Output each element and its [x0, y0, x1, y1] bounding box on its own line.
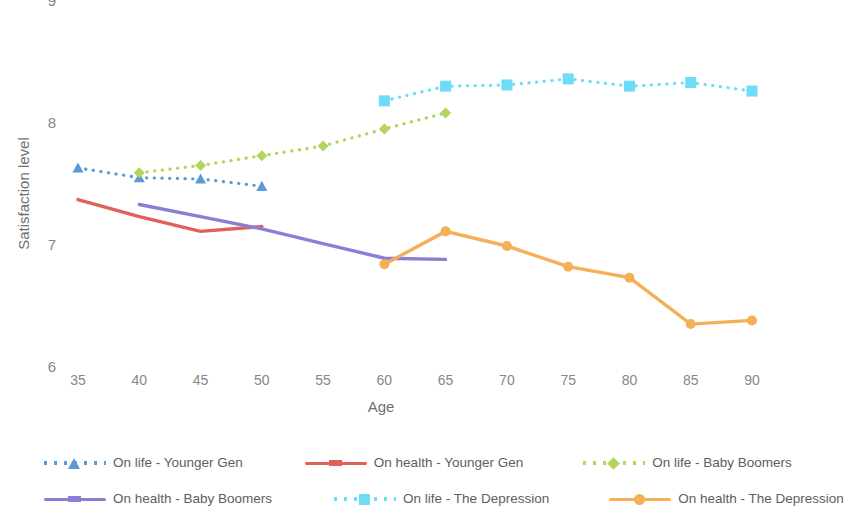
marker-glyph — [607, 457, 620, 470]
triangle-marker-icon — [68, 456, 82, 470]
legend-label: On health - Younger Gen — [374, 456, 523, 470]
dash-marker-icon — [329, 456, 343, 470]
data-point-marker — [440, 81, 451, 92]
data-point-marker — [73, 162, 84, 172]
x-tick-label: 65 — [426, 372, 466, 388]
x-axis-title: Age — [0, 398, 762, 415]
series-0 — [73, 162, 268, 190]
x-tick-label: 55 — [303, 372, 343, 388]
x-tick-label: 70 — [487, 372, 527, 388]
legend-label: On life - Younger Gen — [113, 456, 243, 470]
x-tick-label: 50 — [242, 372, 282, 388]
data-point-marker — [686, 319, 696, 329]
legend-key — [334, 492, 396, 506]
data-point-marker — [685, 77, 696, 88]
data-point-marker — [256, 181, 267, 191]
data-point-marker — [747, 86, 758, 97]
circle-marker-icon — [633, 492, 647, 506]
legend-key — [305, 456, 367, 470]
x-tick-label: 60 — [364, 372, 404, 388]
data-point-marker — [379, 95, 390, 106]
series-1 — [78, 200, 262, 232]
legend-label: On life - The Depression — [403, 492, 549, 506]
x-tick-label: 35 — [58, 372, 98, 388]
data-point-marker — [624, 273, 634, 283]
y-axis-title: Satisfaction level — [15, 109, 32, 279]
legend-key — [583, 456, 645, 470]
y-tick-label: 7 — [32, 237, 56, 253]
legend-key — [44, 492, 106, 506]
marker-glyph — [634, 494, 645, 505]
series-5 — [379, 226, 757, 329]
data-point-marker — [134, 167, 145, 178]
data-point-marker — [379, 123, 390, 134]
series-2 — [134, 108, 451, 179]
x-tick-label: 40 — [119, 372, 159, 388]
data-point-marker — [379, 259, 389, 269]
data-point-marker — [501, 79, 512, 90]
data-point-marker — [256, 150, 267, 161]
x-tick-label: 90 — [732, 372, 772, 388]
y-tick-label: 6 — [32, 359, 56, 375]
data-point-marker — [441, 226, 451, 236]
data-point-marker — [563, 73, 574, 84]
data-point-marker — [318, 140, 329, 151]
series-line — [139, 205, 445, 260]
legend-item-1[interactable]: On health - Younger Gen — [305, 448, 523, 478]
y-tick-label: 8 — [32, 115, 56, 131]
dash-marker-icon — [68, 492, 82, 506]
series-4 — [379, 73, 758, 106]
legend-item-0[interactable]: On life - Younger Gen — [44, 448, 243, 478]
diamond-marker-icon — [607, 456, 621, 470]
data-point-marker — [563, 262, 573, 272]
plot-area: 9 8 7 6 Satisfaction level Age 354045505… — [0, 0, 762, 430]
x-tick-label: 80 — [609, 372, 649, 388]
legend-item-3[interactable]: On health - Baby Boomers — [44, 484, 272, 514]
x-tick-label: 75 — [548, 372, 588, 388]
legend-label: On health - Baby Boomers — [113, 492, 272, 506]
data-point-marker — [624, 81, 635, 92]
marker-glyph — [68, 458, 80, 469]
legend-key — [609, 492, 671, 506]
legend-item-5[interactable]: On health - The Depression — [609, 484, 844, 514]
legend-item-4[interactable]: On life - The Depression — [334, 484, 549, 514]
square-marker-icon — [358, 492, 372, 506]
marker-glyph — [68, 496, 81, 502]
chart-legend: On life - Younger GenOn health - Younger… — [0, 444, 762, 518]
series-3 — [139, 205, 445, 260]
x-tick-label: 45 — [181, 372, 221, 388]
series-line — [384, 231, 752, 324]
y-tick-label: 9 — [32, 0, 56, 9]
data-point-marker — [440, 108, 451, 119]
series-line — [139, 113, 445, 173]
plot-canvas — [0, 0, 762, 430]
legend-row: On health - Baby BoomersOn life - The De… — [0, 484, 762, 514]
data-point-marker — [195, 160, 206, 171]
legend-key — [44, 456, 106, 470]
legend-label: On life - Baby Boomers — [652, 456, 792, 470]
data-point-marker — [195, 173, 206, 183]
data-point-marker — [747, 315, 757, 325]
legend-label: On health - The Depression — [678, 492, 844, 506]
marker-glyph — [329, 460, 342, 466]
data-point-marker — [502, 241, 512, 251]
x-tick-label: 85 — [671, 372, 711, 388]
marker-glyph — [359, 494, 370, 505]
legend-row: On life - Younger GenOn health - Younger… — [0, 448, 762, 478]
legend-item-2[interactable]: On life - Baby Boomers — [583, 448, 792, 478]
series-line — [78, 200, 262, 232]
